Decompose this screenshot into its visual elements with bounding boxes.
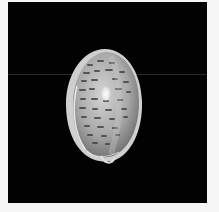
photo-background bbox=[8, 2, 207, 203]
photo-frame bbox=[0, 0, 219, 212]
cowrie-shell bbox=[65, 46, 143, 166]
